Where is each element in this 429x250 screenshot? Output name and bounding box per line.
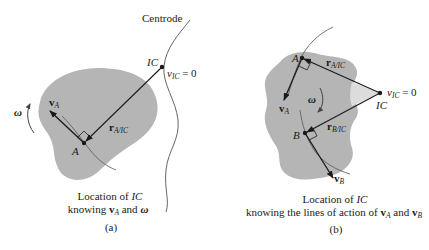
centrode-curve [164, 20, 190, 212]
ic-dot-b [378, 91, 382, 95]
panel-b: A B rA/IC rB/IC vA vB ω vIC = 0 IC Locat… [246, 27, 422, 236]
instantaneous-center-diagram: Centrode IC vIC = 0 A vA rA/IC ω Locatio… [0, 0, 429, 250]
ic-label-b: IC [375, 99, 388, 111]
ic-label-a: IC [146, 56, 159, 68]
point-a-label: A [71, 145, 79, 157]
point-a-dot [82, 141, 86, 145]
point-b-dot [303, 131, 307, 135]
omega-arrow-a [28, 104, 34, 133]
point-b-label: B [293, 129, 300, 141]
vb-label: vB [334, 172, 345, 186]
centrode-label: Centrode [142, 12, 182, 24]
omega-label-b: ω [308, 93, 316, 105]
caption-a-line2: knowing vA and ω [68, 203, 149, 217]
caption-a-tag: (a) [105, 221, 118, 234]
v-ic-label-a: vIC = 0 [167, 67, 197, 81]
point-a-label-b: A [291, 52, 299, 64]
caption-b-line1: Location of IC [303, 193, 368, 205]
omega-label-a: ω [14, 106, 22, 118]
panel-a: Centrode IC vIC = 0 A vA rA/IC ω Locatio… [14, 12, 197, 234]
rigid-body-a [38, 68, 157, 180]
ic-dot-a [160, 65, 164, 69]
v-ic-label-b: vIC = 0 [387, 86, 417, 100]
caption-b-tag: (b) [330, 223, 343, 236]
point-a-dot-b [300, 56, 304, 60]
caption-b-line2: knowing the lines of action of vA and vB [246, 206, 422, 220]
caption-a-line1: Location of IC [78, 190, 143, 202]
rigid-body-b [265, 52, 358, 179]
